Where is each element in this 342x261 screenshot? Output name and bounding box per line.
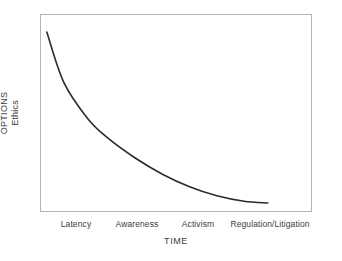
- x-tick-label-regulation-litigation: Regulation/Litigation: [230, 219, 309, 229]
- x-tick-label-latency: Latency: [61, 219, 91, 229]
- x-tick-label-activism: Activism: [182, 219, 214, 229]
- x-tick-label-awareness: Awareness: [116, 219, 159, 229]
- y-axis-label-secondary: Ethics: [10, 100, 21, 126]
- curve-layer: [40, 14, 312, 212]
- decay-curve-svg: [40, 14, 312, 212]
- chart-figure: OPTIONS Ethics Latency Awareness Activis…: [0, 0, 342, 261]
- y-axis-label-primary: OPTIONS: [0, 92, 10, 135]
- decay-curve-path: [47, 32, 268, 203]
- x-axis-title: TIME: [164, 236, 188, 246]
